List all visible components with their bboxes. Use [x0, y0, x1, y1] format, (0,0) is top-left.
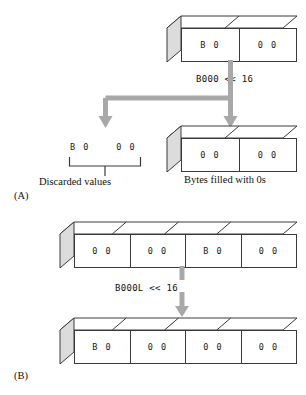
operation-label-b: B000L << 16	[115, 283, 178, 293]
discarded-values-caption: Discarded values	[39, 176, 111, 187]
zero-fill-caption: Bytes filled with 0s	[184, 174, 266, 185]
memory-cell: 0 0	[75, 235, 131, 267]
memory-cell: 0 0	[186, 331, 242, 363]
figure-canvas: B 0 0 0 B000 << 16 B 0 0 0 Discarded val…	[0, 0, 306, 395]
box-front-face: 0 0 0 0	[181, 138, 297, 172]
memory-cell: B 0	[186, 235, 242, 267]
memory-cell: 0 0	[242, 331, 297, 363]
discarded-cell-value: B 0	[70, 142, 90, 152]
memory-cell: 0 0	[242, 235, 297, 267]
two-byte-result-box: 0 0 0 0	[167, 126, 297, 172]
memory-cell: B 0	[75, 331, 131, 363]
memory-cell: 0 0	[240, 29, 297, 61]
two-byte-source-box: B 0 0 0	[167, 16, 297, 62]
shift-branch-arrow	[96, 60, 236, 130]
four-byte-result-box: B 0 0 0 0 0 0 0	[60, 318, 297, 364]
box-front-face: B 0 0 0	[181, 28, 297, 62]
panel-label-b: (B)	[14, 370, 28, 381]
discarded-values-brace	[68, 155, 142, 177]
panel-label-a: (A)	[14, 190, 29, 201]
four-byte-source-box: 0 0 0 0 B 0 0 0	[60, 222, 297, 268]
operation-label-a: B000 << 16	[196, 74, 253, 84]
memory-cell: 0 0	[131, 331, 187, 363]
discarded-cell-value: 0 0	[116, 142, 136, 152]
discarded-values-row: B 0 0 0	[70, 142, 136, 152]
memory-cell: 0 0	[182, 139, 240, 171]
memory-cell: B 0	[182, 29, 240, 61]
memory-cell: 0 0	[131, 235, 187, 267]
box-front-face: 0 0 0 0 B 0 0 0	[74, 234, 297, 268]
box-front-face: B 0 0 0 0 0 0 0	[74, 330, 297, 364]
memory-cell: 0 0	[240, 139, 297, 171]
